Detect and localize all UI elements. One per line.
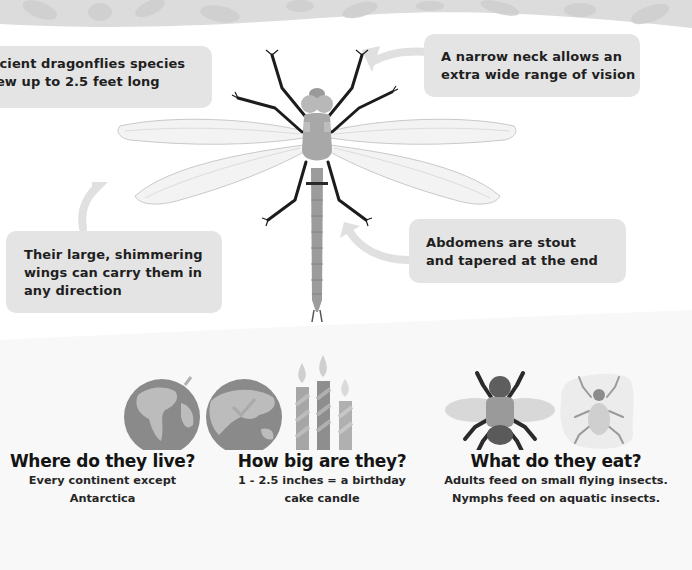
- candles-icon: [222, 355, 422, 450]
- callout-wings-line1: Their large, shimmering: [24, 246, 222, 264]
- callout-wings-line3: any direction: [24, 282, 222, 300]
- callout-abdomen-line2: and tapered at the end: [426, 252, 626, 270]
- size-desc-line1: 1 - 2.5 inches = a birthday: [222, 472, 422, 490]
- callout-ancient-size: Ancient dragonflies species grew up to 2…: [0, 46, 212, 108]
- insects-icon: [425, 355, 687, 450]
- wings-arrow-icon: [82, 188, 96, 228]
- abdomen-arrow-icon: [350, 232, 409, 260]
- fact-diet: What do they eat? Adults feed on small f…: [425, 355, 687, 508]
- wings: [118, 119, 516, 204]
- size-title: How big are they?: [222, 450, 422, 472]
- diet-desc-line1: Adults feed on small flying insects.: [425, 472, 687, 490]
- callout-ancient-line1: Ancient dragonflies species: [0, 55, 212, 73]
- callout-abdomen-line1: Abdomens are stout: [426, 234, 626, 252]
- candle-left: [296, 363, 309, 450]
- candle-right: [339, 379, 352, 450]
- habitat-title: Where do they live?: [0, 450, 205, 472]
- callout-wings: Their large, shimmering wings can carry …: [6, 231, 222, 313]
- fact-habitat: Where do they live? Every continent exce…: [0, 355, 205, 508]
- callout-ancient-line2: grew up to 2.5 feet long: [0, 73, 212, 91]
- diet-desc-line2: Nymphs feed on aquatic insects.: [425, 490, 687, 508]
- callout-narrow-neck: A narrow neck allows an extra wide range…: [424, 34, 640, 97]
- callout-wings-line2: wings can carry them in: [24, 264, 222, 282]
- habitat-desc-line1: Every continent except: [0, 472, 205, 490]
- legs: [238, 55, 392, 220]
- neck-arrow-icon: [372, 52, 430, 62]
- fact-size: How big are they? 1 - 2.5 inches = a bir…: [222, 355, 422, 508]
- callout-neck-line1: A narrow neck allows an: [441, 48, 640, 66]
- diet-title: What do they eat?: [425, 450, 687, 472]
- size-desc-line2: cake candle: [222, 490, 422, 508]
- habitat-desc-line2: Antarctica: [0, 490, 205, 508]
- candle-middle: [317, 355, 330, 450]
- fly-icon: [445, 373, 555, 450]
- callout-neck-line2: extra wide range of vision: [441, 66, 640, 84]
- callout-abdomen: Abdomens are stout and tapered at the en…: [409, 219, 626, 283]
- aquatic-insect-icon: [560, 374, 633, 449]
